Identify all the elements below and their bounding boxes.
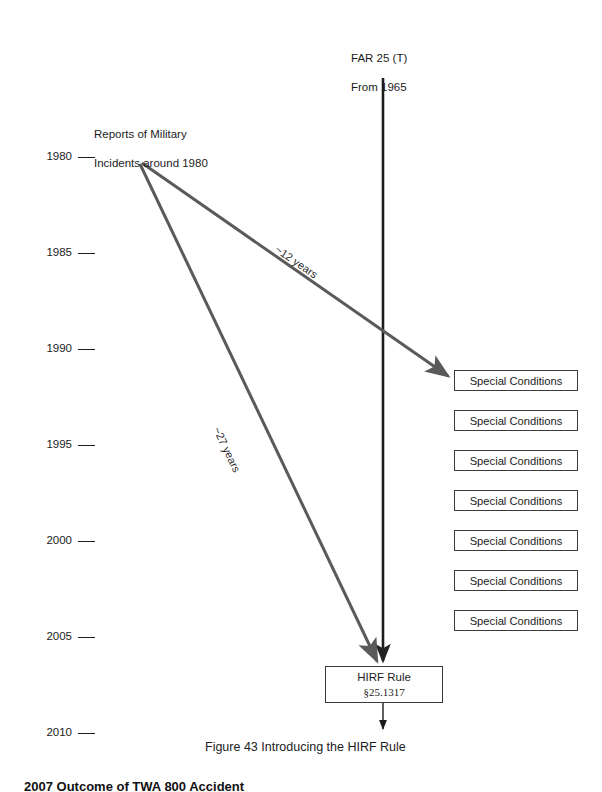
military-reports-line2: Incidents around 1980 — [94, 156, 208, 171]
year-label-1985: 1985 — [24, 246, 72, 258]
special-conditions-box[interactable]: Special Conditions — [454, 530, 578, 551]
figure-caption: Figure 43 Introducing the HIRF Rule — [205, 740, 406, 754]
year-tick-2005 — [78, 637, 95, 638]
year-tick-1995 — [78, 445, 95, 446]
far25-label: FAR 25 (T) From 1965 — [351, 36, 407, 109]
year-label-2005: 2005 — [24, 630, 72, 642]
year-tick-2010 — [78, 733, 95, 734]
year-label-2010: 2010 — [24, 726, 72, 738]
military-reports-label: Reports of Military Incidents around 198… — [94, 112, 208, 185]
special-conditions-box[interactable]: Special Conditions — [454, 410, 578, 431]
year-tick-2000 — [78, 541, 95, 542]
special-conditions-box[interactable]: Special Conditions — [454, 450, 578, 471]
hirf-rule-box[interactable]: HIRF Rule §25.1317 — [325, 666, 443, 703]
hirf-rule-title: HIRF Rule — [326, 670, 442, 685]
year-label-2000: 2000 — [24, 534, 72, 546]
figure-diagram: FAR 25 (T) From 1965 Reports of Military… — [0, 0, 602, 792]
special-conditions-box[interactable]: Special Conditions — [454, 490, 578, 511]
year-label-1980: 1980 — [24, 150, 72, 162]
year-tick-1990 — [78, 349, 95, 350]
year-label-1990: 1990 — [24, 342, 72, 354]
far25-label-line1: FAR 25 (T) — [351, 51, 407, 66]
special-conditions-box[interactable]: Special Conditions — [454, 370, 578, 391]
page-footer-text: 2007 Outcome of TWA 800 Accident — [24, 779, 244, 792]
hirf-rule-section: §25.1317 — [326, 685, 442, 699]
military-reports-line1: Reports of Military — [94, 127, 208, 142]
special-conditions-box[interactable]: Special Conditions — [454, 570, 578, 591]
twentyseven-years-arrow — [140, 164, 377, 661]
year-tick-1980 — [78, 157, 95, 158]
year-label-1995: 1995 — [24, 438, 72, 450]
diagram-vector-layer — [0, 0, 602, 792]
twelve-years-arrow — [142, 163, 448, 376]
far25-label-line2: From 1965 — [351, 80, 407, 95]
special-conditions-box[interactable]: Special Conditions — [454, 610, 578, 631]
year-tick-1985 — [78, 253, 95, 254]
